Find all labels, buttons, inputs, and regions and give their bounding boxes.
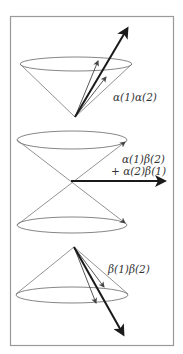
cone-alpha-beta: α(1)β(2) + α(2)β(1) bbox=[17, 131, 166, 233]
cone-rim-bottom bbox=[17, 217, 127, 233]
cone-edge-left bbox=[20, 64, 75, 117]
cone-rim bbox=[20, 57, 132, 71]
spin-arrow-2 bbox=[74, 247, 96, 303]
cone-rim bbox=[16, 287, 128, 303]
cone-beta-beta: β(1)β(2) bbox=[16, 247, 150, 334]
spin-cones-diagram: α(1)α(2) α(1)β(2) + α(2)β(1) β(1)β(2) bbox=[0, 0, 183, 354]
label-alpha-alpha: α(1)α(2) bbox=[113, 91, 157, 103]
label-alpha-beta-line1: α(1)β(2) bbox=[122, 153, 165, 165]
spin-arrow-1 bbox=[75, 61, 98, 117]
total-spin-arrow bbox=[75, 29, 127, 117]
cone-edge-2 bbox=[17, 142, 125, 225]
cone-rim-top bbox=[17, 131, 127, 149]
total-spin-arrow bbox=[74, 247, 123, 334]
label-alpha-beta-line2: + α(2)β(1) bbox=[111, 165, 166, 177]
cone-alpha-alpha: α(1)α(2) bbox=[20, 29, 157, 117]
label-beta-beta: β(1)β(2) bbox=[107, 263, 150, 275]
